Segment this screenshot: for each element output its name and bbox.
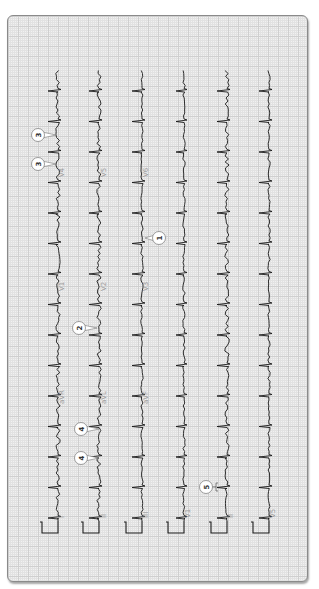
lead-label: aVR (58, 390, 66, 404)
lead-label: aVL (100, 391, 108, 404)
lead-label: V5 (100, 168, 108, 177)
callout-marker: 3 (32, 158, 57, 171)
lead-label: V1 (58, 282, 66, 291)
calibration-pulse (251, 521, 269, 533)
strip-5-trace (209, 71, 230, 534)
lead-label: III (142, 512, 150, 518)
calibration-pulse (81, 521, 99, 533)
lead-label: V4 (58, 167, 66, 177)
lead-label: V3 (142, 282, 150, 291)
callout-marker: 4 (75, 452, 100, 465)
svg-text:1: 1 (156, 235, 164, 240)
ecg-trace-canvas: IaVRV1V4IIaVLV2V5IIIaVFV3V6V1IIV51233445 (8, 16, 307, 581)
callout-marker: 1 (145, 232, 166, 245)
svg-text:2: 2 (76, 325, 84, 330)
lead-label: V1 (184, 509, 192, 518)
lead-label: V6 (142, 167, 150, 177)
callout-marker: 4 (75, 423, 100, 436)
strip-3-trace (124, 71, 145, 534)
svg-text:3: 3 (35, 161, 43, 166)
calibration-pulse (40, 521, 58, 533)
lead-label: I (58, 516, 66, 518)
lead-label: V5 (269, 509, 277, 518)
callout-marker: 2 (73, 322, 98, 335)
lead-label: II (227, 514, 235, 518)
callout-marker: 5 (200, 481, 219, 494)
svg-text:4: 4 (78, 426, 86, 431)
strip-1-trace (40, 71, 61, 534)
svg-text:5: 5 (203, 484, 211, 489)
calibration-pulse (124, 521, 142, 533)
svg-text:3: 3 (35, 132, 43, 137)
strip-6-trace (251, 71, 272, 534)
lead-label: V2 (100, 282, 108, 291)
calibration-pulse (209, 521, 227, 533)
svg-text:4: 4 (78, 455, 86, 460)
ecg-panel: IaVRV1V4IIaVLV2V5IIIaVFV3V6V1IIV51233445 (7, 15, 308, 582)
callout-marker: 3 (32, 129, 57, 142)
calibration-pulse (166, 521, 184, 533)
strip-4-trace (166, 71, 187, 534)
lead-label: II (100, 514, 108, 518)
lead-label: aVF (142, 391, 150, 404)
